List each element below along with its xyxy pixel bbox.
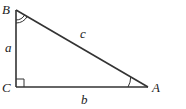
side-c-line [16,10,148,87]
angle-a-arc-icon [128,77,131,87]
side-a-label: a [5,40,12,55]
angle-b-arc-inner-icon [16,15,25,20]
right-angle-mark-icon [16,79,24,87]
side-b-label: b [81,92,88,107]
vertex-a-label: A [151,80,160,95]
side-c-label: c [80,26,86,41]
vertex-b-label: B [2,2,10,17]
right-triangle-diagram: B C A a c b [0,0,186,109]
vertex-c-label: C [2,80,11,95]
